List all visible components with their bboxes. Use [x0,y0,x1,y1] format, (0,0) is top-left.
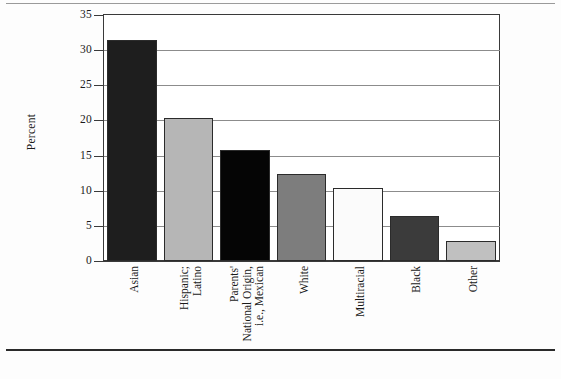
x-axis-label-line: White [298,266,311,362]
bar [333,188,383,261]
bar [220,150,270,261]
x-axis-label-line: Latino [191,266,204,362]
x-axis-label-line: Other [467,266,480,362]
y-axis-tick-mark [94,120,103,121]
y-axis-tick: 20 [62,114,92,125]
y-axis-tick-label: 35 [66,9,92,20]
bar [164,118,214,261]
y-axis-tick: 30 [62,44,92,55]
y-axis-tick-mark [94,156,103,157]
y-axis-tick-mark [94,50,103,51]
bar [277,174,327,261]
y-axis-title: Percent [25,87,37,177]
y-axis-tick: 15 [62,150,92,161]
x-axis-label-line: National Origin, [241,266,254,362]
y-axis-tick-mark [94,15,103,16]
y-axis-tick: 25 [62,79,92,90]
bar [390,216,440,261]
y-axis-tick-label: 20 [66,114,92,125]
x-axis-label-text: Hispanic;Latino [178,266,203,362]
x-axis-label-line: Black [410,266,423,362]
x-axis-label-text: White [298,266,311,362]
y-axis-tick-label: 5 [66,220,92,231]
y-axis-tick-label: 15 [66,150,92,161]
x-axis-label-text: Black [410,266,423,362]
x-axis-label-text: Other [467,266,480,362]
x-axis-label-line: Hispanic; [178,266,191,362]
bar [446,241,496,261]
y-axis-tick: 35 [62,9,92,20]
y-axis-tick-label: 10 [66,185,92,196]
y-axis-tick-mark [94,191,103,192]
y-axis-tick-label: 30 [66,44,92,55]
bar-series [104,15,499,261]
y-axis-tick-label: 25 [66,79,92,90]
y-axis-tick: 10 [62,185,92,196]
x-axis-label-line: Parents' [228,266,241,362]
y-axis-tick: 5 [62,220,92,231]
x-axis-label-line: i.e., Mexican [254,266,267,362]
bar [107,40,157,261]
bar-chart: 05101520253035 Percent AsianHispanic;Lat… [0,0,561,379]
x-axis-label-line: Asian [128,266,141,362]
y-axis-tick-mark [94,85,103,86]
x-axis-label-text: Parents'National Origin,i.e., Mexican [228,266,266,362]
x-axis-label-group: AsianHispanic;LatinoParents'National Ori… [0,262,561,362]
y-axis-tick-mark [94,226,103,227]
x-axis-label-text: Asian [128,266,141,362]
figure-page: 05101520253035 Percent AsianHispanic;Lat… [0,0,561,379]
x-axis-label-line: Multiracial [354,266,367,362]
x-axis-label-text: Multiracial [354,266,367,362]
